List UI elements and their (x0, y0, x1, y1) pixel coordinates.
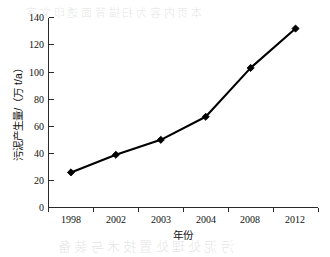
data-point (157, 136, 164, 143)
x-axis-title: 年份 (173, 229, 194, 241)
x-axis-tick-labels: 1998 2002 2003 2004 2008 2012 (61, 214, 305, 225)
x-tick-label: 2002 (106, 214, 126, 225)
data-series (67, 25, 299, 176)
x-axis-ticks (49, 208, 319, 213)
y-tick-label: 40 (34, 148, 44, 159)
x-tick-label: 1998 (61, 214, 81, 225)
y-tick-label: 80 (34, 94, 44, 105)
y-tick-label: 120 (29, 39, 44, 50)
y-axis-ticks (49, 18, 54, 208)
x-tick-label: 2004 (196, 214, 216, 225)
series-line (71, 29, 296, 173)
y-tick-label: 100 (29, 67, 44, 78)
y-tick-label: 0 (39, 202, 44, 213)
chart-figure: 污 泥 处 理 处 置 技 术 与 装 备 本 页 内 容 为 扫 描 背 面 … (0, 0, 330, 257)
series-markers (67, 25, 299, 176)
data-point (112, 151, 119, 158)
y-axis-title: 污泥产生量/（万 t/a） (12, 63, 24, 161)
line-chart: 污泥产生量/（万 t/a） 0 20 40 60 80 100 120 140 (0, 0, 330, 257)
y-tick-label: 60 (34, 121, 44, 132)
x-tick-label: 2003 (151, 214, 171, 225)
data-point (67, 169, 74, 176)
x-tick-label: 2012 (285, 214, 305, 225)
y-tick-label: 140 (29, 12, 44, 23)
y-axis-tick-labels: 0 20 40 60 80 100 120 140 (29, 12, 44, 213)
y-tick-label: 20 (34, 175, 44, 186)
x-tick-label: 2008 (240, 214, 260, 225)
